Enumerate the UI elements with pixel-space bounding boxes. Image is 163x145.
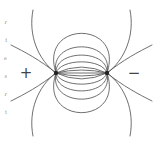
- negative-charge-point: [105, 71, 109, 75]
- dipole-field-diagram: + −: [0, 0, 163, 145]
- field-line-outer: [11, 45, 56, 73]
- field-line-upper: [56, 70, 107, 73]
- positive-sign-label: +: [20, 64, 33, 82]
- negative-sign-label: −: [128, 64, 141, 82]
- positive-charge-point: [54, 71, 58, 75]
- field-line-outer: [11, 73, 56, 101]
- field-line-lower: [56, 73, 107, 76]
